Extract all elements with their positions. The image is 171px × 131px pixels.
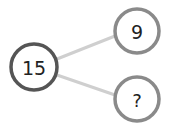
whole-node: 15 xyxy=(11,44,57,90)
part-bottom-label: ? xyxy=(132,90,142,111)
part-node-bottom: ? xyxy=(115,77,159,121)
whole-label: 15 xyxy=(22,57,46,79)
connector-bottom xyxy=(57,75,115,95)
number-bond-diagram: 15 9 ? xyxy=(0,0,171,131)
part-top-label: 9 xyxy=(131,21,143,43)
part-node-top: 9 xyxy=(115,9,159,53)
connector-top xyxy=(57,36,115,59)
